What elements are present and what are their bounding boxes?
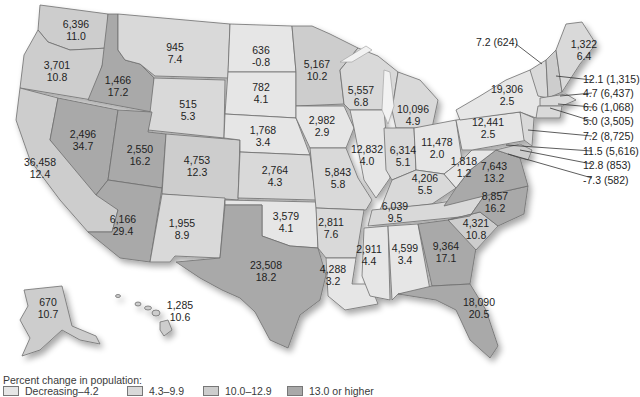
label-ne: 1,7683.4 (250, 124, 276, 148)
state-ct-ri[interactable] (536, 106, 562, 118)
label-ut: 2,55016.2 (127, 143, 153, 167)
legend-item-4-3-9-9: 4.3–9.9 (127, 385, 203, 397)
label-ms: 2,9114.4 (356, 243, 382, 267)
label-ny: 19,3062.5 (491, 83, 523, 107)
pop: 7,643 (481, 160, 507, 172)
pct: 34.7 (70, 140, 96, 152)
pop: 8,857 (482, 190, 508, 202)
legend-label: 4.3–9.9 (149, 385, 184, 397)
label-az: 6,16629.4 (110, 213, 136, 237)
callout-ct: 5.0 (3,505) (583, 115, 634, 127)
pop: 4,288 (320, 263, 346, 275)
callout-ma: 4.7 (6,437) (583, 87, 634, 99)
pop: 4,753 (184, 154, 210, 166)
label-hi: 1,28510.6 (167, 299, 193, 323)
pop: 5,557 (348, 84, 374, 96)
label-wi: 5,5576.8 (348, 84, 374, 108)
legend-item-decreasing: Decreasing–4.2 (3, 385, 127, 397)
label-mt: 9457.4 (166, 41, 184, 65)
pop: 5,167 (304, 58, 330, 70)
label-ia: 2,9822.9 (309, 114, 335, 138)
pop: 1,818 (451, 155, 477, 167)
pop: 2,496 (70, 128, 96, 140)
pop: 2,982 (309, 114, 335, 126)
pct: 9.5 (382, 212, 408, 224)
pop: 3,701 (44, 59, 70, 71)
label-ok: 3,5794.1 (273, 210, 299, 234)
pct: 3.2 (320, 275, 346, 287)
state-hi-island[interactable] (116, 295, 121, 298)
pop: 4,321 (463, 217, 489, 229)
pop: 670 (38, 296, 58, 308)
label-la: 4,2883.2 (320, 263, 346, 287)
pop: 1,322 (571, 38, 597, 50)
pct: 2.5 (472, 128, 504, 140)
pct: 4.1 (273, 222, 299, 234)
pct: 6.4 (571, 50, 597, 62)
pct: 17.1 (433, 252, 459, 264)
pct: 10.2 (304, 70, 330, 82)
state-hi-island[interactable] (145, 306, 152, 310)
pop: 515 (179, 98, 197, 110)
callout-ri: 6.6 (1,068) (583, 101, 634, 113)
pop: 6,039 (382, 200, 408, 212)
pop: 10,096 (397, 103, 429, 115)
pct: 5.5 (412, 184, 438, 196)
pop: 2,764 (262, 164, 288, 176)
legend-swatch (287, 386, 303, 396)
pct: 1.2 (451, 167, 477, 179)
label-mo: 5,8435.8 (325, 166, 351, 190)
pct: 18.2 (250, 271, 282, 283)
pct: 4.4 (356, 255, 382, 267)
pop: 23,508 (250, 259, 282, 271)
pct: 4.9 (397, 115, 429, 127)
label-me: 1,3226.4 (571, 38, 597, 62)
callout-de: 12.8 (853) (583, 159, 631, 171)
pop: 18,090 (463, 296, 495, 308)
pop: 2,911 (356, 243, 382, 255)
label-wy: 5155.3 (179, 98, 197, 122)
label-nc: 8,85716.2 (482, 190, 508, 214)
label-co: 4,75312.3 (184, 154, 210, 178)
pct: 4.3 (262, 176, 288, 188)
pop: 12,832 (351, 143, 383, 155)
legend-label: Decreasing–4.2 (25, 385, 99, 397)
label-nm: 1,9558.9 (169, 217, 195, 241)
pct: 7.6 (318, 228, 344, 240)
pct: 13.2 (481, 172, 507, 184)
legend-swatch (3, 386, 19, 396)
pop: 782 (252, 81, 270, 93)
pop: 9,364 (433, 240, 459, 252)
pct: 2.9 (309, 126, 335, 138)
pop: 1,466 (105, 74, 131, 86)
state-ak[interactable] (20, 286, 100, 356)
pct: 4.1 (252, 93, 270, 105)
pct: 16.2 (127, 155, 153, 167)
state-hi-island[interactable] (135, 302, 141, 306)
label-sc: 4,32110.8 (463, 217, 489, 241)
label-in: 6,3145.1 (390, 144, 416, 168)
label-oh: 11,4782.0 (421, 136, 452, 160)
pct: 7.4 (166, 53, 184, 65)
label-ga: 9,36417.1 (433, 240, 459, 264)
pop: 11,478 (421, 136, 452, 148)
pop: 1,285 (167, 299, 193, 311)
label-nv: 2,49634.7 (70, 128, 96, 152)
callout-nh: 12.1 (1,315) (583, 73, 640, 85)
pct: 12.4 (24, 168, 56, 180)
state-hi-island[interactable] (152, 310, 160, 316)
label-il: 12,8324.0 (351, 143, 383, 167)
label-pa: 12,4412.5 (472, 116, 504, 140)
label-ak: 67010.7 (38, 296, 58, 320)
pop: 6,314 (390, 144, 416, 156)
pct: 20.5 (463, 308, 495, 320)
pct: 10.8 (463, 229, 489, 241)
pct: 4.0 (351, 155, 383, 167)
pop: 6,396 (63, 18, 89, 30)
pct: -0.8 (252, 56, 270, 68)
label-tn: 6,0399.5 (382, 200, 408, 224)
callout-dc: -7.3 (582) (583, 174, 629, 186)
pct: 17.2 (105, 86, 131, 98)
pct: 3.4 (250, 136, 276, 148)
callout-md: 11.5 (5,616) (583, 145, 639, 157)
